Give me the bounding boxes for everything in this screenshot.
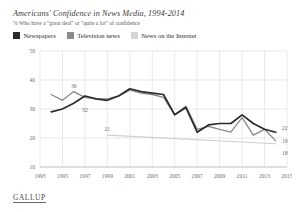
svg-text:50: 50 xyxy=(29,48,35,54)
svg-text:19: 19 xyxy=(282,138,288,144)
legend-swatch-icon xyxy=(131,32,138,39)
svg-text:20: 20 xyxy=(29,135,35,141)
chart-subtitle: % Who have a "great deal" or "quite a lo… xyxy=(13,20,292,26)
legend-label: News on the Internet xyxy=(141,32,196,39)
svg-text:21: 21 xyxy=(105,126,111,132)
svg-text:30: 30 xyxy=(29,106,35,112)
svg-text:2009: 2009 xyxy=(214,173,225,179)
svg-text:40: 40 xyxy=(29,77,35,83)
gridlines xyxy=(40,51,287,167)
legend-item-television-news[interactable]: Television news xyxy=(67,32,120,39)
svg-text:2003: 2003 xyxy=(147,173,158,179)
svg-text:2001: 2001 xyxy=(124,173,135,179)
page-title: Americans' Confidence in News Media, 199… xyxy=(13,9,292,18)
legend-item-news-on-the-internet[interactable]: News on the Internet xyxy=(131,32,197,39)
legend-swatch-icon xyxy=(67,32,74,39)
svg-text:22: 22 xyxy=(282,125,288,131)
line-chart-svg: 1020304050 19931995199719992001200320052… xyxy=(10,43,292,195)
legend-label: Television news xyxy=(77,32,120,39)
svg-text:2013: 2013 xyxy=(259,173,270,179)
chart-card: Americans' Confidence in News Media, 199… xyxy=(0,0,302,212)
svg-text:18: 18 xyxy=(282,150,288,156)
svg-text:32: 32 xyxy=(82,107,88,113)
svg-text:2011: 2011 xyxy=(237,173,248,179)
legend-item-newspapers[interactable]: Newspapers xyxy=(13,32,56,39)
svg-text:1997: 1997 xyxy=(79,173,90,179)
svg-text:1999: 1999 xyxy=(102,173,113,179)
y-axis-tick-labels: 1020304050 xyxy=(29,48,35,170)
chart-legend: Newspapers Television news News on the I… xyxy=(13,32,292,39)
legend-label: Newspapers xyxy=(24,32,56,39)
svg-text:2007: 2007 xyxy=(192,173,203,179)
plot-area: 1020304050 19931995199719992001200320052… xyxy=(10,43,292,193)
svg-text:1995: 1995 xyxy=(57,173,68,179)
gallup-brand: GALLUP xyxy=(13,194,46,203)
x-axis-tick-labels: 1993199519971999200120032005200720092011… xyxy=(34,173,292,179)
svg-text:2015: 2015 xyxy=(281,173,292,179)
svg-text:36: 36 xyxy=(71,83,77,89)
legend-swatch-icon xyxy=(13,32,20,39)
data-annotations: 363221221918 xyxy=(71,83,288,156)
svg-text:2005: 2005 xyxy=(169,173,180,179)
svg-text:10: 10 xyxy=(29,164,35,170)
svg-text:1993: 1993 xyxy=(34,173,45,179)
